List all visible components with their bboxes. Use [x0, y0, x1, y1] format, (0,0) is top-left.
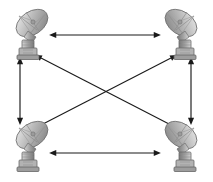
satellite-dish-icon	[151, 116, 207, 178]
satellite-dish-icon	[6, 116, 62, 178]
diagram-canvas	[0, 0, 213, 182]
satellite-dish-icon	[6, 4, 62, 66]
satellite-node-top-right[interactable]	[151, 4, 207, 66]
satellite-dish-icon	[151, 4, 207, 66]
satellite-node-bottom-left[interactable]	[6, 116, 62, 178]
satellite-node-bottom-right[interactable]	[151, 116, 207, 178]
satellite-node-top-left[interactable]	[6, 4, 62, 66]
